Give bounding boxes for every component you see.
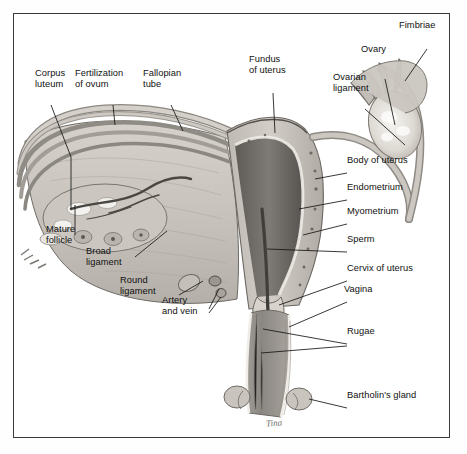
- label-broad-ligament: Broad ligament: [86, 246, 122, 267]
- right-adnexa: [313, 59, 428, 219]
- artist-signature: Tina: [266, 417, 283, 428]
- label-fundus-of-uterus: Fundus of uterus: [249, 54, 286, 75]
- label-cervix-of-uterus: Cervix of uterus: [347, 263, 413, 274]
- label-sperm: Sperm: [347, 234, 375, 245]
- label-myometrium: Myometrium: [347, 206, 399, 217]
- label-fimbriae: Fimbriae: [399, 20, 436, 31]
- vaginal-canal: [247, 310, 291, 417]
- anatomical-figure: Corpus luteum Fertilization of ovum Fall…: [0, 0, 467, 454]
- label-ovarian-ligament: Ovarian ligament: [333, 72, 369, 93]
- label-artery-and-vein: Artery and vein: [162, 295, 198, 316]
- label-corpus-luteum: Corpus luteum: [35, 68, 65, 89]
- label-vagina: Vagina: [344, 284, 373, 295]
- label-body-of-uterus: Body of uterus: [347, 155, 408, 166]
- label-mature-follicle: Mature follicle: [46, 224, 75, 245]
- label-ovary: Ovary: [361, 44, 386, 55]
- label-endometrium: Endometrium: [347, 182, 403, 193]
- label-fallopian-tube: Fallopian tube: [143, 68, 181, 89]
- label-round-ligament: Round ligament: [120, 275, 156, 296]
- label-bartholins-gland: Bartholin's gland: [347, 390, 416, 401]
- label-fertilization: Fertilization of ovum: [75, 68, 123, 89]
- label-rugae: Rugae: [347, 326, 375, 337]
